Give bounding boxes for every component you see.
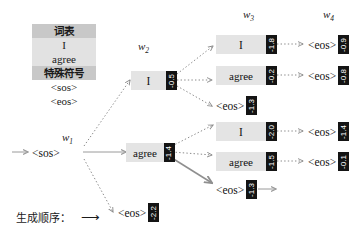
node-w3b-agree-box: agree xyxy=(216,152,266,171)
node-w4b-eos-top-box: <eos> xyxy=(306,122,338,141)
node-w3a-I[interactable]: I -1.8 xyxy=(216,35,277,54)
node-w3a-I-token: I xyxy=(239,39,243,51)
beam-search-diagram: 词表 I agree 特殊符号 <sos> <eos> w1 w2 w3 w4 … xyxy=(0,0,363,239)
score-badge-w1-eos: -2.2 xyxy=(148,203,159,222)
vocab-word-1: agree xyxy=(32,52,96,66)
node-w2-I[interactable]: I -0.5 xyxy=(131,71,177,90)
node-w1-agree[interactable]: agree -1.4 xyxy=(126,143,175,162)
special-token-1: <eos> xyxy=(32,94,96,108)
edge-w2I-to-w3a-eos xyxy=(177,86,212,106)
node-w3b-agree[interactable]: agree -1.5 xyxy=(216,152,277,171)
score-badge-w2-I: -0.5 xyxy=(166,71,177,90)
node-w3a-I-box: I xyxy=(216,35,266,54)
score-badge-w3b-I: -2.0 xyxy=(266,122,277,141)
node-w4a-eos-bot-box: <eos> xyxy=(306,66,338,85)
edge-w2I-to-w3a-I xyxy=(177,46,213,74)
edge-w1agree-to-w3b-agree xyxy=(172,152,212,155)
node-w3b-eos-token: <eos> xyxy=(216,184,244,196)
node-w1-eos[interactable]: <eos> -2.2 xyxy=(116,203,159,222)
score-badge-w4b-eos-bot: -0.1 xyxy=(338,152,349,171)
node-start[interactable]: <sos> xyxy=(30,143,62,162)
score-badge-w4a-eos-bot: -0.8 xyxy=(338,66,349,85)
node-w2-I-token: I xyxy=(147,75,151,87)
node-w4a-eos-top[interactable]: <eos> -0.9 xyxy=(306,35,349,54)
node-w4a-eos-top-token: <eos> xyxy=(308,39,336,51)
node-w4b-eos-bot-token: <eos> xyxy=(308,156,336,168)
node-w4a-eos-bot[interactable]: <eos> -0.8 xyxy=(306,66,349,85)
generation-order-caption: 生成顺序：⟶ xyxy=(16,209,99,226)
score-badge-w4a-eos-top: -0.9 xyxy=(338,35,349,54)
vocabulary-table: 词表 I agree 特殊符号 <sos> <eos> xyxy=(32,24,96,108)
node-w3a-eos[interactable]: <eos> -1.3 xyxy=(214,96,257,115)
node-w1-eos-box: <eos> xyxy=(116,203,148,222)
node-w3a-agree-token: agree xyxy=(229,70,253,82)
score-badge-w3a-agree: -0.2 xyxy=(266,66,277,85)
score-badge-w3a-eos: -1.3 xyxy=(246,96,257,115)
node-w4b-eos-bot[interactable]: <eos> -0.1 xyxy=(306,152,349,171)
node-w4b-eos-top[interactable]: <eos> -1.4 xyxy=(306,122,349,141)
node-w4b-eos-bot-box: <eos> xyxy=(306,152,338,171)
step-label-w1: w1 xyxy=(62,131,73,146)
node-start-box: <sos> xyxy=(30,143,62,162)
special-header: 特殊符号 xyxy=(32,66,96,80)
generation-order-text: 生成顺序： xyxy=(16,212,71,224)
node-w3a-eos-token: <eos> xyxy=(216,100,244,112)
node-start-token: <sos> xyxy=(32,147,60,159)
edge-w1agree-to-w3b-eos xyxy=(172,158,212,183)
node-w3b-eos-box: <eos> xyxy=(214,180,246,199)
score-badge-w3a-I: -1.8 xyxy=(266,35,277,54)
node-w3b-I-token: I xyxy=(239,126,243,138)
node-w2-I-box: I xyxy=(131,71,166,90)
special-token-0: <sos> xyxy=(32,80,96,94)
node-w1-agree-token: agree xyxy=(133,147,157,159)
score-badge-w3b-eos: -1.3 xyxy=(246,180,257,199)
step-label-w2: w2 xyxy=(138,40,149,55)
node-w3b-I[interactable]: I -2.0 xyxy=(216,122,277,141)
edge-start-to-w1-eos xyxy=(84,159,113,212)
score-badge-w3b-agree: -1.5 xyxy=(266,152,277,171)
vocab-header: 词表 xyxy=(32,24,96,38)
edge-w1agree-to-w3b-I xyxy=(172,125,213,146)
score-badge-w1-agree: -1.4 xyxy=(164,143,175,162)
node-w3b-I-box: I xyxy=(216,122,266,141)
node-w4a-eos-bot-token: <eos> xyxy=(308,70,336,82)
node-w1-eos-token: <eos> xyxy=(118,207,146,219)
node-w1-agree-box: agree xyxy=(126,143,164,162)
step-label-w4: w4 xyxy=(323,8,334,23)
node-w3b-agree-token: agree xyxy=(229,156,253,168)
vocab-word-0: I xyxy=(32,38,96,52)
node-w4b-eos-top-token: <eos> xyxy=(308,126,336,138)
generation-order-arrow-icon: ⟶ xyxy=(81,210,99,225)
step-label-w3: w3 xyxy=(243,8,254,23)
node-w3a-agree-box: agree xyxy=(216,66,266,85)
score-badge-w4b-eos-top: -1.4 xyxy=(338,122,349,141)
node-w3b-eos[interactable]: <eos> -1.3 xyxy=(214,180,257,199)
node-w3a-agree[interactable]: agree -0.2 xyxy=(216,66,277,85)
node-w3a-eos-box: <eos> xyxy=(214,96,246,115)
node-w4a-eos-top-box: <eos> xyxy=(306,35,338,54)
